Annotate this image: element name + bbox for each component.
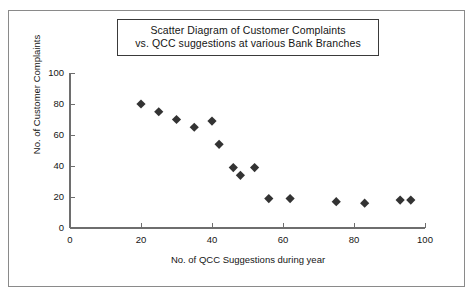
x-tick-label: 100 (412, 234, 438, 245)
x-tick-label: 0 (57, 234, 83, 245)
scatter-point (264, 194, 273, 203)
y-tick-label: 40 (38, 160, 64, 171)
x-tick-label: 40 (199, 234, 225, 245)
scatter-point (236, 171, 245, 180)
scatter-point (286, 194, 295, 203)
scatter-chart: Scatter Diagram of Customer Complaints v… (9, 11, 464, 286)
x-tick-label: 20 (128, 234, 154, 245)
scatter-point (172, 115, 181, 124)
scatter-point (396, 196, 405, 205)
y-tick-label: 100 (38, 67, 64, 78)
figure-border: Scatter Diagram of Customer Complaints v… (8, 10, 465, 287)
y-axis-label: No. of Customer Complaints (31, 30, 42, 160)
y-tick-label: 60 (38, 129, 64, 140)
plot-canvas (9, 11, 466, 288)
scatter-point (215, 140, 224, 149)
scatter-point (136, 99, 145, 108)
y-tick-label: 0 (38, 222, 64, 233)
scatter-point (229, 163, 238, 172)
y-tick-label: 20 (38, 191, 64, 202)
scatter-point (360, 199, 369, 208)
y-tick-label: 80 (38, 98, 64, 109)
scatter-point (207, 116, 216, 125)
scatter-point (406, 196, 415, 205)
scatter-point (190, 123, 199, 132)
x-tick-label: 60 (270, 234, 296, 245)
x-axis-label: No. of QCC Suggestions during year (70, 254, 426, 265)
scatter-point (250, 163, 259, 172)
scatter-point (154, 107, 163, 116)
scatter-point (332, 197, 341, 206)
x-tick-label: 80 (341, 234, 367, 245)
